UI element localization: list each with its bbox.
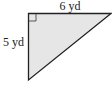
left-side-label: 5 yd (3, 35, 24, 49)
right-triangle (29, 14, 112, 81)
top-side-label: 6 yd (60, 0, 81, 13)
triangle-diagram: 6 yd 5 yd (0, 0, 112, 86)
